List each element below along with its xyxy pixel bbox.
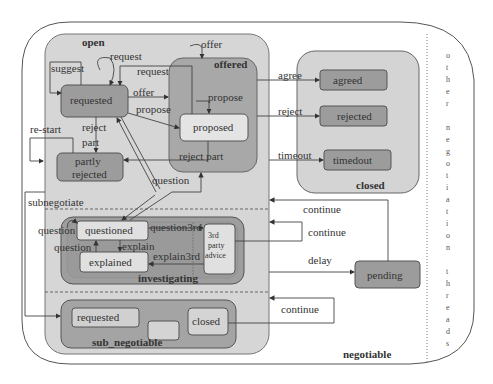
svg-text:h: h [446,279,450,288]
text-explained: explained [89,256,132,268]
label-sub-negotiable: sub_negotiable [92,336,162,348]
text-continue-2: continue [308,226,346,238]
svg-text:n: n [446,243,450,252]
text-offer: offer [133,86,155,98]
text-advice: advice [205,251,226,260]
svg-text:g: g [446,147,450,156]
text-reject: reject [82,121,106,133]
text-propose-entry: propose [208,91,243,103]
text-sub-requested: requested [77,311,120,323]
svg-text:d: d [446,327,450,336]
svg-text:a: a [446,315,450,324]
svg-text:e: e [446,303,450,312]
text-party: party [208,241,224,250]
text-continue-1: continue [303,203,341,215]
text-question-self: question [38,224,76,236]
text-suggest: suggest [51,62,84,74]
svg-text:o: o [446,51,450,60]
svg-text:e: e [446,87,450,96]
svg-text:s: s [446,339,449,348]
text-explain: explain [122,240,155,252]
svg-text:n: n [446,123,450,132]
text-explain3rd: explain3rd [153,250,201,262]
label-closed: closed [356,179,385,191]
text-agreed: agreed [333,74,363,86]
svg-text:e: e [446,135,450,144]
svg-text:o: o [446,231,450,240]
text-requested: requested [70,94,113,106]
text-question-up: question [54,241,92,253]
svg-text:a: a [446,195,450,204]
text-request-back: request [137,65,169,77]
text-rejected-part: rejected [72,168,107,180]
text-question-to-offered: question [152,174,190,186]
text-subnegotiate: subnegotiate [28,196,84,208]
label-open: open [82,36,105,48]
text-rejected: rejected [337,110,372,122]
text-re-start: re-start [30,123,61,135]
svg-text:r: r [446,99,449,108]
svg-text:r: r [446,291,449,300]
text-reject-transition: reject [278,105,302,117]
text-request-self: request [110,50,142,62]
text-offer-entry: offer [201,38,223,50]
text-timeout: timeout [278,149,312,161]
label-investigating: investigating [138,272,198,284]
text-sub-closed: closed [192,315,221,327]
text-continue-3: continue [281,303,319,315]
text-partly: partly [75,155,101,167]
text-proposed: proposed [193,121,234,133]
text-propose: propose [136,103,171,115]
text-reject-part-offered: reject part [179,150,223,162]
label-offered: offered [214,58,247,70]
text-pending: pending [367,269,403,281]
text-question3rd: question3rd [150,221,202,233]
text-agree: agree [278,69,302,81]
text-timedout: timedout [333,154,372,166]
text-delay: delay [308,254,332,266]
other-threads-label: o t h e r n e g o t i a t i o n t h r e … [446,51,450,348]
state-diagram: open offered closed investigating sub_ne… [0,0,493,384]
text-3rd: 3rd [208,231,219,240]
text-part: part [82,136,99,148]
text-questioned: questioned [85,224,133,236]
svg-text:h: h [446,75,450,84]
svg-text:o: o [446,159,450,168]
label-negotiable: negotiable [343,348,391,360]
